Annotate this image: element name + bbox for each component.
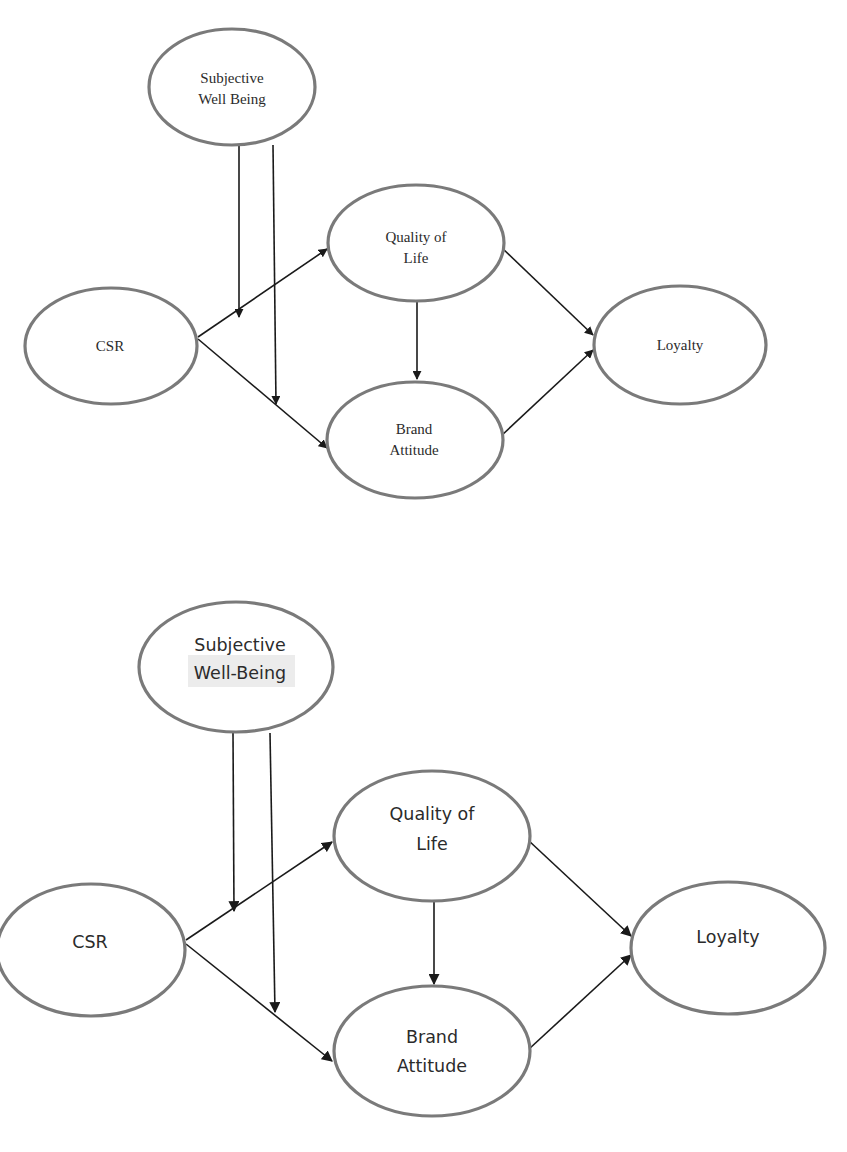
- node-brand-attitude: Brand Attitude: [327, 382, 503, 498]
- node-quality-of-life: Quality of Life: [334, 771, 530, 901]
- node-label: Attitude: [389, 442, 439, 458]
- node-label: Quality of: [390, 804, 476, 824]
- node-csr: CSR: [25, 288, 197, 404]
- edge-csr-to-qol: [186, 842, 332, 940]
- node-label: Loyalty: [696, 927, 759, 947]
- node-csr: CSR: [0, 884, 185, 1016]
- node-label: Well-Being: [194, 663, 286, 683]
- node-label: Brand: [406, 1027, 458, 1047]
- node-label: Subjective: [194, 635, 285, 655]
- edge-swb-moderates-csr-ba: [270, 733, 275, 1012]
- node-quality-of-life: Quality of Life: [328, 185, 504, 301]
- node-label: Life: [404, 250, 429, 266]
- diagram-canvas: Subjective Well Being CSR Quality of Lif…: [0, 0, 847, 1152]
- node-label: Well Being: [198, 91, 266, 107]
- edge-csr-to-ba: [186, 944, 332, 1061]
- node-label: Loyalty: [657, 337, 704, 353]
- node-label: CSR: [72, 932, 108, 952]
- node-subjective-well-being: Subjective Well Being: [149, 29, 315, 145]
- edge-csr-to-qol: [198, 249, 327, 337]
- node-label: Quality of: [385, 229, 446, 245]
- node-label: Subjective: [200, 70, 264, 86]
- node-brand-attitude: Brand Attitude: [334, 986, 530, 1116]
- edge-qol-to-loyalty: [528, 840, 631, 936]
- node-subjective-well-being: Subjective Well-Being: [139, 602, 333, 732]
- diagram-1: Subjective Well Being CSR Quality of Lif…: [25, 29, 766, 498]
- edge-swb-moderates-csr-ba: [273, 145, 276, 404]
- node-loyalty: Loyalty: [594, 286, 766, 404]
- node-label: Attitude: [397, 1056, 467, 1076]
- edge-qol-to-loyalty: [501, 247, 593, 335]
- edge-ba-to-loyalty: [529, 955, 631, 1049]
- node-loyalty: Loyalty: [631, 882, 825, 1014]
- diagram-2: Subjective Well-Being CSR Quality of Lif…: [0, 602, 825, 1116]
- node-label: Life: [416, 834, 448, 854]
- node-label: Brand: [396, 421, 433, 437]
- edge-csr-to-ba: [198, 339, 327, 448]
- edge-swb-moderates-csr-qol: [233, 733, 234, 911]
- edge-ba-to-loyalty: [501, 350, 593, 436]
- node-label: CSR: [96, 338, 124, 354]
